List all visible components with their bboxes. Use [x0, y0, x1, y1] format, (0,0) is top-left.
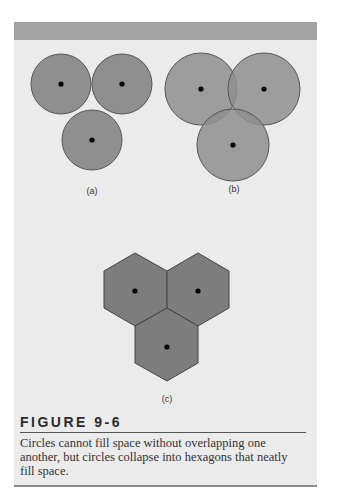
panel-c-hexagons: [104, 253, 229, 381]
center-dot: [132, 288, 137, 293]
center-dot: [89, 137, 94, 142]
panel-c-label: (c): [162, 394, 173, 404]
panel-a-label: (a): [87, 186, 98, 196]
title-rule: [20, 432, 306, 433]
center-dot: [164, 344, 169, 349]
panel-b-label: (b): [229, 184, 240, 194]
figure-panel: (a) (b) (c) FIGURE 9-6 Circles cannot fi…: [14, 22, 317, 487]
figure-title: FIGURE 9-6: [20, 414, 122, 430]
center-dot: [195, 288, 200, 293]
center-dot: [230, 142, 235, 147]
figure-caption: Circles cannot fill space without overla…: [20, 436, 300, 478]
center-dot: [198, 86, 203, 91]
center-dot: [119, 81, 124, 86]
panel-b-circles: [165, 53, 300, 181]
panel-a-circles: [31, 54, 152, 170]
center-dot: [261, 86, 266, 91]
center-dot: [58, 81, 63, 86]
